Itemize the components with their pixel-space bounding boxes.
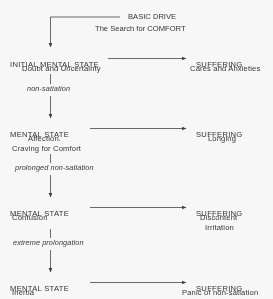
suffering-detail-1a: Cares and Anxieties	[190, 64, 260, 74]
connector-label-3: extreme prolongation	[13, 238, 84, 247]
suffering-detail-3b: Irritation	[205, 223, 234, 233]
mental-state-detail-2b: Craving for Comfort	[12, 144, 81, 154]
diagram-title-line2: The Search for COMFORT	[95, 23, 186, 34]
diagram-title-line1: BASIC DRIVE	[128, 11, 176, 22]
flow-diagram: BASIC DRIVE The Search for COMFORT INITI…	[0, 0, 273, 299]
mental-state-detail-1a: Doubt and Uncertainty	[22, 64, 101, 74]
connector-label-2: prolonged non-satiation	[15, 163, 94, 172]
mental-state-detail-3a: Confusion	[12, 213, 48, 223]
suffering-detail-2a: Longing	[208, 134, 236, 144]
mental-state-detail-4a: Inertia	[12, 288, 34, 298]
mental-state-detail-2a: Affection.	[28, 134, 61, 144]
suffering-detail-4a: Panic of non-satiation	[182, 288, 258, 298]
suffering-detail-3a: Discontent	[200, 213, 237, 223]
connector-label-1: non-satiation	[27, 84, 70, 93]
